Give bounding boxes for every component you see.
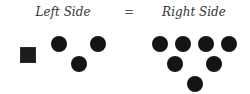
right-circle-icon	[175, 36, 191, 52]
left-circle-icon	[51, 36, 67, 52]
equals-sign: =	[124, 5, 134, 19]
right-circle-icon	[206, 56, 222, 72]
right-circle-icon	[198, 36, 214, 52]
left-circle-icon	[71, 56, 87, 72]
left-circle-icon	[90, 36, 106, 52]
right-circle-icon	[187, 76, 203, 92]
left-square-icon	[20, 47, 36, 63]
right-circle-icon	[221, 36, 237, 52]
right-circle-icon	[152, 36, 168, 52]
left-side-label: Left Side	[36, 5, 91, 19]
right-side-label: Right Side	[162, 5, 226, 19]
right-circle-icon	[167, 56, 183, 72]
